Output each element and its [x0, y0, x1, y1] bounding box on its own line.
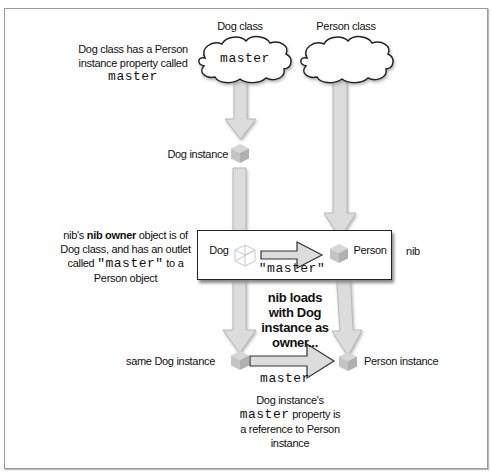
loads-line3: instance as: [255, 320, 335, 335]
same-dog-instance-cube-icon: [231, 351, 249, 370]
nib-label: nib: [403, 244, 423, 258]
class-note-line1: Dog class has a Person: [68, 42, 198, 56]
person-instance-label: Person instance: [364, 354, 444, 368]
nib-owner-note: nib's nib owner object is of Dog class, …: [58, 228, 193, 285]
class-note-code: master: [68, 70, 198, 84]
result-line1: Dog instance's: [235, 393, 345, 407]
same-dog-instance-label: same Dog instance: [125, 354, 215, 368]
nib-outlet-label: "master": [252, 262, 332, 276]
nib-dog-label: Dog: [205, 243, 233, 257]
nib-note-line4: Person object: [58, 271, 193, 285]
nib-person-cube-icon: [330, 244, 348, 263]
dog-cloud-text: master: [210, 52, 280, 66]
person-class-label: Person class: [306, 19, 386, 33]
loads-line4: owner...: [255, 335, 335, 350]
master-arrow-label: master: [255, 372, 315, 386]
nib-note-line3-pre: called: [67, 257, 97, 269]
class-note-line2: instance property called: [68, 56, 198, 70]
loads-line1: nib loads: [255, 290, 335, 305]
nib-note-pre: nib's: [63, 229, 87, 241]
class-note: Dog class has a Person instance property…: [68, 42, 198, 84]
result-line4: instance: [235, 436, 345, 450]
loads-line2: with Dog: [255, 305, 335, 320]
nib-note-line2: Dog class, and has an outlet: [58, 242, 193, 256]
nib-note-post: object is of: [136, 229, 188, 241]
person-instance-cube-icon: [339, 352, 357, 371]
result-line2-code: master: [240, 407, 290, 422]
dog-class-label: Dog class: [205, 19, 275, 33]
nib-loads-note: nib loads with Dog instance as owner...: [255, 290, 335, 350]
dog-instance-label: Dog instance: [158, 147, 228, 161]
result-line2-post: property is: [290, 408, 341, 420]
nib-note-bold: nib owner: [87, 229, 136, 241]
nib-note-line3-code: "master": [97, 256, 163, 271]
nib-person-label: Person: [352, 243, 388, 257]
result-line3: a reference to Person: [235, 422, 345, 436]
result-note: Dog instance's master property is a refe…: [235, 393, 345, 450]
nib-note-line3-post: to a: [164, 257, 184, 269]
